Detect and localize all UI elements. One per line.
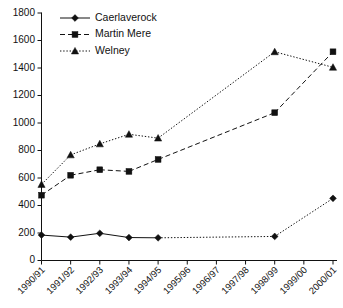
series-segment [129, 159, 158, 171]
data-point-marker [39, 192, 45, 198]
legend-label: Caerlaverock [95, 11, 158, 23]
chart-canvas: 020040060080010001200140016001800 1990/9… [0, 0, 343, 308]
series-layer [38, 48, 337, 241]
y-axis: 020040060080010001200140016001800 [13, 7, 42, 266]
legend-marker-sample [72, 15, 79, 22]
data-point-marker [68, 172, 74, 178]
x-tick-label: 1994/95 [131, 264, 163, 296]
series-segment [71, 170, 100, 176]
x-tick-label: 1998/99 [248, 264, 280, 296]
series-segment [42, 235, 71, 237]
legend-item-martin-mere[interactable]: Martin Mere [60, 27, 151, 39]
y-tick-label: 1600 [13, 34, 36, 45]
series-segment [42, 155, 71, 185]
data-point-marker [126, 169, 132, 175]
data-point-marker [125, 131, 132, 138]
chart-legend: CaerlaverockMartin MereWelney [60, 11, 158, 56]
x-tick-label: 1991/92 [44, 264, 76, 296]
x-tick-label: 1995/96 [161, 264, 193, 296]
y-tick-label: 200 [18, 227, 35, 238]
legend-item-welney[interactable]: Welney [60, 44, 131, 56]
data-point-marker [330, 49, 336, 55]
legend-marker-sample [71, 47, 78, 54]
data-point-marker [155, 157, 161, 163]
series-welney [38, 48, 337, 187]
data-point-marker [97, 167, 103, 173]
series-segment [71, 233, 100, 237]
y-tick-label: 400 [18, 199, 35, 210]
y-tick-label: 600 [18, 172, 35, 183]
series-segment [100, 170, 129, 172]
data-point-marker [96, 140, 103, 147]
y-tick-label: 0 [29, 254, 35, 265]
legend-marker-sample [72, 32, 78, 38]
y-tick-label: 1800 [13, 7, 36, 18]
y-tick-label: 1200 [13, 89, 36, 100]
series-segment [100, 134, 129, 144]
series-segment [71, 144, 100, 155]
y-tick-label: 800 [18, 144, 35, 155]
series-segment [129, 134, 158, 138]
series-segment [158, 113, 275, 160]
data-point-marker [155, 234, 162, 241]
x-tick-label: 1993/94 [102, 264, 134, 296]
data-point-marker [67, 151, 74, 158]
series-segment [42, 175, 71, 195]
series-martin-mere [39, 49, 336, 198]
data-point-marker [126, 234, 133, 241]
series-segment [158, 52, 275, 138]
x-tick-label: 1990/91 [15, 264, 47, 296]
legend-label: Welney [95, 44, 131, 56]
data-point-marker [272, 110, 278, 116]
legend-label: Martin Mere [95, 27, 151, 39]
data-point-marker [330, 195, 337, 202]
x-tick-label: 1992/93 [73, 264, 105, 296]
x-tick-label: 1999/00 [277, 264, 309, 296]
data-point-marker [271, 233, 278, 240]
series-segment [275, 52, 333, 113]
series-segment [100, 233, 129, 237]
data-point-marker [67, 234, 74, 241]
y-tick-label: 1000 [13, 117, 36, 128]
series-segment [275, 52, 333, 68]
series-segment [275, 198, 333, 236]
series-segment [158, 236, 275, 237]
series-caerlaverock [38, 195, 336, 241]
x-tick-label: 2000/01 [306, 264, 338, 296]
y-tick-label: 1400 [13, 62, 36, 73]
line-chart: 020040060080010001200140016001800 1990/9… [0, 0, 343, 308]
x-axis: 1990/911991/921992/931993/941994/951995/… [15, 261, 339, 297]
data-point-marker [271, 48, 278, 55]
x-tick-label: 1997/98 [219, 264, 251, 296]
data-point-marker [96, 230, 103, 237]
legend-item-caerlaverock[interactable]: Caerlaverock [60, 11, 158, 23]
x-tick-label: 1996/97 [190, 264, 222, 296]
